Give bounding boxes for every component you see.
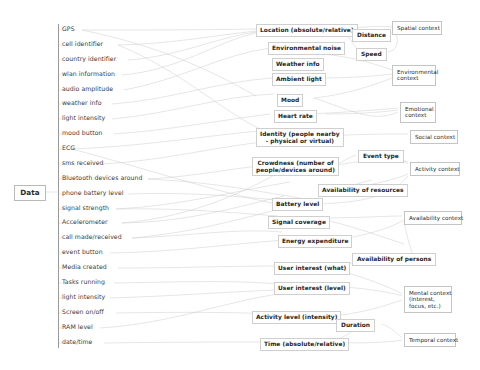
attribute-node: Battery level [272, 198, 323, 211]
context-node-environmental: Environmental context [392, 65, 436, 86]
attribute-node: Ambient light [272, 73, 326, 86]
attribute-node: Environmental noise [268, 42, 345, 55]
attribute-node: Crowdness (number of people/devices arou… [252, 157, 339, 176]
data-source-item: weather info [62, 100, 102, 107]
attribute-node: Mood [277, 94, 303, 107]
attribute-node: Signal coverage [268, 216, 330, 229]
data-source-item: Accelerometer [62, 219, 108, 226]
intermediate-node: Duration [336, 319, 375, 332]
data-source-item: GPS [62, 26, 75, 33]
data-spine [58, 24, 59, 348]
context-node-mental: Mental context (interest, focus, etc.) [404, 286, 452, 313]
attribute-node: Time (absolute/relative) [260, 338, 349, 351]
data-source-item: Tasks running [62, 279, 105, 286]
intermediate-node: Event type [358, 150, 404, 163]
data-source-item: country identifier [62, 56, 116, 63]
attribute-node: User interest (level) [274, 282, 350, 295]
data-source-item: light intensity [62, 115, 105, 122]
data-source-item: call made/received [62, 234, 122, 241]
data-source-item: ECG [62, 145, 75, 152]
data-source-item: Screen on/off [62, 309, 104, 316]
attribute-node: Energy expenditure [278, 235, 352, 248]
data-source-item: Media created [62, 264, 107, 271]
attribute-node: Activity level (intensity) [252, 311, 341, 324]
attribute-node: Location (absolute/relative) [256, 24, 358, 37]
data-source-item: wlan information [62, 71, 115, 78]
data-source-item: light intensity [62, 294, 105, 301]
context-node-spatial: Spatial context [392, 21, 442, 35]
data-source-item: cell identifier [62, 41, 103, 48]
root-node-data: Data [14, 185, 46, 201]
data-source-item: audio amplitude [62, 86, 113, 93]
attribute-node: Weather info [272, 58, 324, 71]
attribute-node: Heart rate [274, 110, 317, 123]
context-node-temporal: Temporal context [404, 333, 456, 347]
context-node-emotional: Emotional context [400, 102, 436, 123]
data-source-item: sms received [62, 160, 104, 167]
attribute-node: Availability of resources [318, 184, 408, 197]
intermediate-node: Availability of persons [352, 253, 436, 266]
data-source-item: phone battery level [62, 190, 124, 197]
data-source-item: mood button [62, 130, 102, 137]
data-source-item: date/time [62, 339, 92, 346]
data-source-item: Bluetooth devices around [62, 175, 142, 182]
data-source-item: RAM level [62, 324, 93, 331]
attribute-node: Identity (people nearby - physical or vi… [256, 128, 344, 147]
intermediate-node: Speed [356, 48, 387, 61]
context-node-social: Social context [410, 130, 458, 144]
context-node-availability: Availability context [404, 211, 462, 225]
intermediate-node: Distance [352, 29, 391, 42]
attribute-node: User interest (what) [274, 262, 350, 275]
context-node-activity: Activity context [410, 162, 460, 176]
diagram-canvas: Data GPS cell identifier country identif… [0, 0, 480, 370]
data-source-item: signal strength [62, 205, 109, 212]
data-source-item: event button [62, 249, 103, 256]
